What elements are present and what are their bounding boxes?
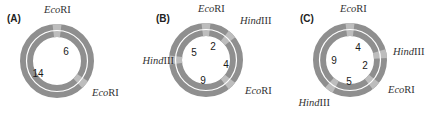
fragment-size-label: 6 (63, 46, 69, 57)
site-label: EcoRI (197, 3, 225, 14)
site-label: HindIII (239, 15, 272, 26)
site-label: HindIII (392, 46, 425, 57)
panel-label: (C) (300, 13, 314, 24)
fragment-size-label: 9 (200, 75, 206, 86)
site-label: HindIII (298, 97, 331, 108)
fragment-size-label: 4 (223, 59, 229, 70)
fragment-size-label: 4 (355, 42, 361, 53)
restriction-map-figure: (A)EcoRIEcoRI614(B)EcoRIHindIIIEcoRIHind… (0, 0, 433, 114)
fragment-size-label: 5 (191, 47, 197, 58)
fragment-size-label: 2 (362, 60, 368, 71)
plasmid-map-b: (B)EcoRIHindIIIEcoRIHindIII2495 (142, 3, 273, 96)
site-label: HindIII (142, 55, 175, 66)
fragment-size-label: 14 (32, 68, 44, 79)
fragment-size-label: 5 (346, 76, 352, 87)
site-label: EcoRI (387, 84, 415, 95)
plasmid-map-a: (A)EcoRIEcoRI614 (7, 4, 119, 98)
plasmid-map-c: (C)EcoRIHindIIIEcoRIHindIII4259 (298, 3, 425, 108)
panel-label: (B) (156, 13, 170, 24)
site-label: EcoRI (339, 3, 367, 14)
fragment-size-label: 2 (210, 41, 216, 52)
fragment-size-label: 9 (331, 55, 337, 66)
site-label: EcoRI (91, 87, 119, 98)
strand-gap (27, 31, 88, 92)
site-label: EcoRI (244, 85, 272, 96)
plasmid-maps-diagram: (A)EcoRIEcoRI614(B)EcoRIHindIIIEcoRIHind… (0, 0, 433, 114)
panel-label: (A) (7, 13, 21, 24)
site-label: EcoRI (43, 4, 71, 15)
